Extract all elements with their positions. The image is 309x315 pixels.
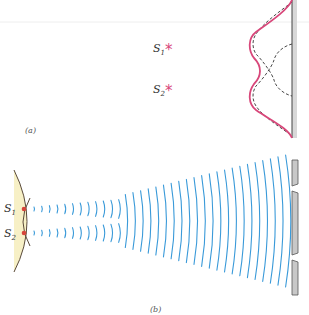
wavefronts <box>34 155 291 287</box>
screen-segment-top <box>292 160 298 186</box>
wavefront-arc <box>240 166 244 275</box>
wavefront-arc <box>88 202 89 215</box>
wavefront-arc <box>286 155 291 287</box>
screen-segment-middle <box>292 191 298 255</box>
wavefront-arc <box>65 228 66 237</box>
slit-screen <box>292 160 298 295</box>
wavefront-arc <box>119 224 121 243</box>
combined-intensity-curve <box>250 0 292 138</box>
wavefront-arc <box>57 205 58 213</box>
source-s1-a: S1 * <box>153 41 173 59</box>
panel-a: S1 * S2 * (a) <box>0 0 309 138</box>
panel-b-label: (b) <box>150 305 161 314</box>
wavefront-arc <box>49 230 50 237</box>
wavefront-arc <box>163 185 166 257</box>
source-s1-dot <box>22 207 27 212</box>
wavefront-arc <box>217 172 221 270</box>
source-s2-dot <box>22 231 27 236</box>
wavefront-arc <box>80 227 81 239</box>
wavefront-arc <box>263 161 268 282</box>
wavefront-arc <box>209 174 213 268</box>
wavefront-arc <box>111 200 113 217</box>
wavefront-arc <box>125 194 127 247</box>
intensity-curve-s1 <box>253 44 292 136</box>
wavefront-arc <box>111 224 113 241</box>
wavefront-arc <box>278 157 283 285</box>
wavefront-arc <box>34 231 35 235</box>
wavefront-arc <box>88 226 89 239</box>
wavefront-arc <box>148 189 151 253</box>
wavefront-arc <box>225 170 229 272</box>
intensity-curve-s2 <box>253 2 292 96</box>
wavefront-arc <box>49 206 50 213</box>
panel-b: S1 S2 (b) <box>4 155 298 314</box>
wavefront-arc <box>171 183 174 259</box>
wavefront-arc <box>133 193 135 250</box>
wavefront-arc <box>270 159 275 283</box>
wavefront-arc <box>186 179 189 262</box>
screen-segment-bottom <box>292 260 298 295</box>
source-s2-label: S2 <box>153 83 166 98</box>
wavefront-arc <box>72 204 73 215</box>
source-s1-star-icon: * <box>165 41 173 59</box>
wavefront-arc <box>72 228 73 239</box>
screen-a <box>292 0 297 138</box>
diagram: S1 * S2 * (a) S1 S2 <box>0 0 309 315</box>
wavefront-arc <box>194 178 198 265</box>
wavefront-arc <box>80 203 81 215</box>
source-s2-a: S2 * <box>153 82 173 100</box>
wavefront-arc <box>34 207 35 211</box>
source-s2-star-icon: * <box>165 82 173 100</box>
wavefront-arc <box>247 164 252 277</box>
wavefront-arc <box>156 187 159 255</box>
wavefront-arc <box>141 191 144 252</box>
wavefront-arc <box>96 202 97 217</box>
wavefront-arc <box>103 201 104 217</box>
wavefront-arc <box>119 200 121 219</box>
wavefront-arc <box>179 181 182 260</box>
wavefront-arc <box>103 225 104 241</box>
wavefront-arc <box>202 176 206 267</box>
wavefront-arc <box>65 204 66 213</box>
wavefront-arc <box>232 168 236 274</box>
wavefront-arc <box>96 226 97 241</box>
wavefront-arc <box>57 229 58 237</box>
wavefront-arc <box>42 230 43 235</box>
source-s1-label: S1 <box>153 42 165 57</box>
panel-a-label: (a) <box>25 126 36 135</box>
wavefront-arc <box>42 206 43 211</box>
wavefront-arc <box>255 163 260 280</box>
